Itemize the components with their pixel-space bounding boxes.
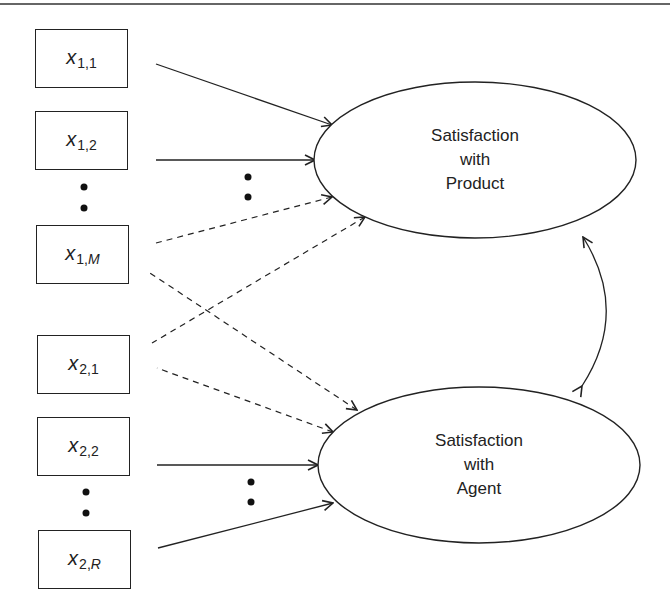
latent-product-label: Satisfaction with Product <box>375 124 575 196</box>
observed-x21: x2,1 <box>37 335 130 394</box>
ellipsis-dots-left-bottom <box>83 489 90 517</box>
path-product-x11 <box>156 64 332 125</box>
ellipsis-dots-left-top <box>81 184 88 212</box>
path-diagram-canvas <box>0 0 670 616</box>
observed-x1M: x1,M <box>36 225 129 284</box>
observed-x11: x1,1 <box>35 29 128 88</box>
path-product-x1M-dashed <box>156 197 332 243</box>
path-agent-x2R <box>158 503 333 548</box>
ellipsis-dots-paths-top <box>245 174 252 201</box>
observed-x22: x2,2 <box>37 417 130 476</box>
observed-x2R: x2,R <box>38 530 131 589</box>
path-product-x21-dashed <box>152 217 365 343</box>
covariance-double-arrow <box>582 237 606 386</box>
path-agent-x1M-dashed <box>150 273 357 410</box>
latent-agent-label: Satisfaction with Agent <box>379 429 579 501</box>
ellipsis-dots-paths-bottom <box>248 479 255 506</box>
path-agent-x21-dashed <box>157 368 333 432</box>
observed-x12: x1,2 <box>35 111 128 170</box>
